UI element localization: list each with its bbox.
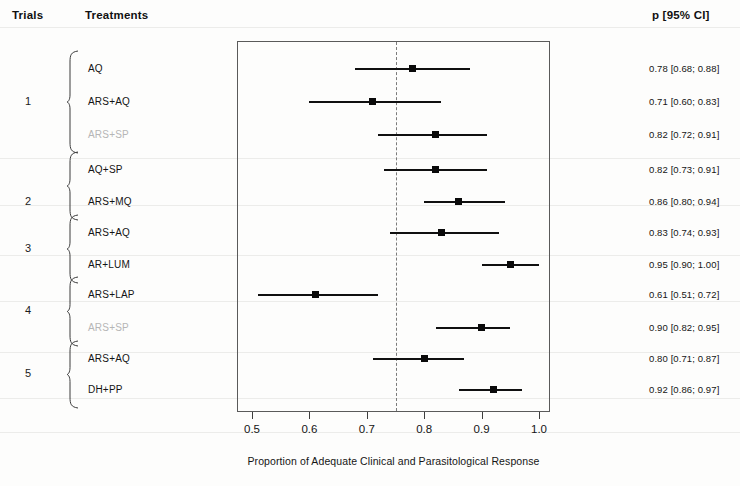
forest-plot-figure: Trials Treatments p [95% CI] 12345 AQARS… bbox=[0, 0, 740, 486]
x-axis-tick bbox=[252, 412, 253, 419]
treatment-label: ARS+SP bbox=[88, 129, 129, 140]
confidence-interval-row bbox=[238, 353, 549, 365]
confidence-interval-row bbox=[238, 96, 549, 108]
confidence-interval-line bbox=[373, 358, 465, 360]
point-estimate-marker bbox=[478, 324, 485, 331]
x-axis: 0.50.60.70.80.91.0 bbox=[237, 412, 550, 413]
confidence-interval-row bbox=[238, 63, 549, 75]
ci-value-label: 0.90 [0.82; 0.95] bbox=[649, 322, 719, 333]
point-estimate-marker bbox=[490, 386, 497, 393]
trial-number: 5 bbox=[18, 367, 38, 379]
confidence-interval-row bbox=[238, 129, 549, 141]
ci-value-label: 0.61 [0.51; 0.72] bbox=[649, 289, 719, 300]
plot-inner bbox=[238, 42, 549, 411]
confidence-interval-row bbox=[238, 227, 549, 239]
x-axis-tick-label: 0.8 bbox=[416, 423, 432, 435]
treatment-label: ARS+AQ bbox=[88, 96, 130, 107]
trial-number: 2 bbox=[18, 195, 38, 207]
column-header-ci: p [95% CI] bbox=[652, 9, 710, 21]
x-axis-tick bbox=[539, 412, 540, 419]
point-estimate-marker bbox=[432, 166, 439, 173]
point-estimate-marker bbox=[432, 131, 439, 138]
ci-value-label: 0.80 [0.71; 0.87] bbox=[649, 353, 719, 364]
ci-value-label: 0.95 [0.90; 1.00] bbox=[649, 259, 719, 270]
point-estimate-marker bbox=[455, 198, 462, 205]
x-axis-tick-label: 0.6 bbox=[301, 423, 317, 435]
column-header-trials: Trials bbox=[12, 9, 43, 21]
ci-value-label: 0.86 [0.80; 0.94] bbox=[649, 196, 719, 207]
ci-value-label: 0.71 [0.60; 0.83] bbox=[649, 96, 719, 107]
treatment-label: AQ bbox=[88, 63, 103, 74]
scan-streak bbox=[0, 27, 740, 28]
point-estimate-marker bbox=[421, 355, 428, 362]
ci-value-label: 0.83 [0.74; 0.93] bbox=[649, 227, 719, 238]
point-estimate-marker bbox=[369, 98, 376, 105]
confidence-interval-row bbox=[238, 289, 549, 301]
trial-number: 3 bbox=[18, 242, 38, 254]
trial-group-brace bbox=[66, 151, 79, 221]
confidence-interval-row bbox=[238, 164, 549, 176]
x-axis-tick bbox=[424, 412, 425, 419]
point-estimate-marker bbox=[312, 291, 319, 298]
trial-group-brace bbox=[66, 50, 79, 154]
treatment-label: ARS+AQ bbox=[88, 227, 130, 238]
ci-value-label: 0.82 [0.72; 0.91] bbox=[649, 129, 719, 140]
confidence-interval-line bbox=[436, 327, 511, 329]
treatment-label: DH+PP bbox=[88, 384, 123, 395]
ci-value-label: 0.78 [0.68; 0.88] bbox=[649, 63, 719, 74]
trial-group-brace bbox=[66, 340, 79, 409]
x-axis-tick-label: 0.7 bbox=[359, 423, 375, 435]
x-axis-tick bbox=[367, 412, 368, 419]
confidence-interval-row bbox=[238, 196, 549, 208]
ci-value-label: 0.92 [0.86; 0.97] bbox=[649, 384, 719, 395]
x-axis-tick-label: 0.9 bbox=[474, 423, 490, 435]
treatment-label: AR+LUM bbox=[88, 259, 130, 270]
point-estimate-marker bbox=[409, 65, 416, 72]
treatment-label: ARS+SP bbox=[88, 322, 129, 333]
x-axis-title: Proportion of Adequate Clinical and Para… bbox=[237, 455, 550, 467]
x-axis-tick bbox=[482, 412, 483, 419]
x-axis-tick-label: 0.5 bbox=[244, 423, 260, 435]
treatment-label: ARS+MQ bbox=[88, 196, 132, 207]
point-estimate-marker bbox=[507, 261, 514, 268]
confidence-interval-row bbox=[238, 384, 549, 396]
forest-plot-panel bbox=[237, 41, 550, 412]
confidence-interval-row bbox=[238, 322, 549, 334]
point-estimate-marker bbox=[438, 229, 445, 236]
trial-number: 4 bbox=[18, 304, 38, 316]
trial-number: 1 bbox=[18, 95, 38, 107]
trial-group-brace bbox=[66, 276, 79, 347]
treatment-label: ARS+LAP bbox=[88, 289, 135, 300]
x-axis-tick bbox=[309, 412, 310, 419]
trial-group-brace bbox=[66, 214, 79, 284]
confidence-interval-line bbox=[424, 201, 504, 203]
ci-value-label: 0.82 [0.73; 0.91] bbox=[649, 164, 719, 175]
x-axis-tick-label: 1.0 bbox=[531, 423, 547, 435]
treatment-label: ARS+AQ bbox=[88, 353, 130, 364]
treatment-label: AQ+SP bbox=[88, 164, 123, 175]
column-header-treatments: Treatments bbox=[85, 9, 148, 21]
confidence-interval-row bbox=[238, 259, 549, 271]
